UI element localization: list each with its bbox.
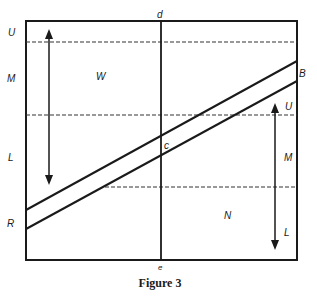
label-bottom-e: e (158, 263, 163, 272)
label-right-b: B (299, 68, 306, 79)
label-region-w: W (96, 71, 107, 82)
label-left-u: U (8, 27, 16, 38)
label-left-l: L (8, 152, 14, 163)
label-left-r: R (7, 218, 14, 229)
label-center-c: c (164, 140, 169, 151)
label-region-n: N (224, 210, 232, 221)
left-arrow-down-head-icon (45, 175, 53, 185)
figure-3-diagram: U M L R W d c B U M N L e Figure 3 (0, 0, 317, 299)
label-right-u: U (285, 101, 293, 112)
left-arrow-up-head-icon (45, 29, 53, 39)
right-arrow-down-head-icon (271, 240, 279, 250)
label-right-l: L (284, 227, 290, 238)
label-left-m: M (7, 73, 16, 84)
figure-caption: Figure 3 (139, 276, 182, 290)
label-right-m: M (284, 152, 293, 163)
right-arrow-up-head-icon (271, 103, 279, 113)
label-top-d: d (157, 9, 163, 20)
